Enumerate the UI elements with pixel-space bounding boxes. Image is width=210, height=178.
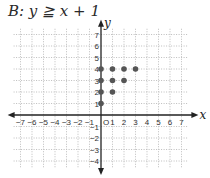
y-tick-label: 5 [95, 54, 100, 63]
x-tick-label: 1 [110, 118, 115, 127]
solution-point [110, 66, 116, 72]
x-tick-label: 3 [133, 118, 138, 127]
x-tick-label: 2 [122, 118, 127, 127]
solution-point [121, 78, 127, 84]
y-tick-label: −3 [90, 146, 100, 155]
y-tick-label: 6 [95, 42, 100, 51]
y-axis-down-arrow-icon [98, 168, 104, 175]
y-tick-label: −2 [90, 134, 100, 143]
solution-point [98, 78, 104, 84]
x-tick-label: 4 [145, 118, 150, 127]
solution-point [121, 66, 127, 72]
x-tick-label: 5 [156, 118, 161, 127]
x-tick-label: −5 [39, 118, 49, 127]
x-tick-label: −7 [16, 118, 26, 127]
x-axis-label: x [199, 108, 206, 122]
x-tick-label: −6 [27, 118, 37, 127]
y-tick-label: −4 [90, 157, 100, 166]
solution-point [98, 101, 104, 107]
x-tick-label: −3 [62, 118, 72, 127]
x-tick-label: −4 [50, 118, 60, 127]
solution-point [98, 66, 104, 72]
solution-point [133, 66, 139, 72]
x-tick-label: 7 [179, 118, 184, 127]
coordinate-plane: xy−7−6−5−4−3−2−11234567−4−3−2−11234567O [0, 0, 210, 178]
y-tick-label: −1 [90, 123, 100, 132]
y-axis-label: y [103, 16, 111, 30]
x-tick-label: 6 [168, 118, 173, 127]
x-axis-left-arrow-icon [8, 112, 15, 118]
x-tick-label: −2 [73, 118, 83, 127]
x-axis-right-arrow-icon [191, 112, 198, 118]
y-tick-label: 7 [95, 31, 100, 40]
solution-point [110, 89, 116, 95]
solution-point [98, 89, 104, 95]
origin-label: O [103, 118, 109, 127]
solution-point [110, 78, 116, 84]
